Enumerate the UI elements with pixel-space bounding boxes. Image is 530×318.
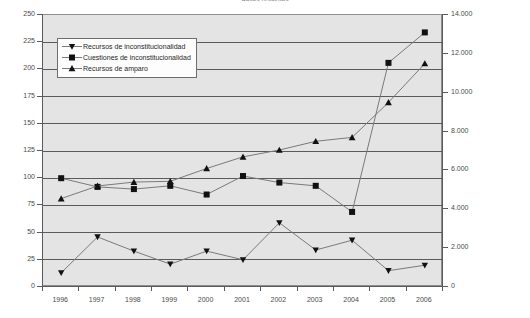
right-axis-tick (443, 169, 448, 170)
left-axis-label: 225 (0, 37, 35, 45)
legend-item: Recursos de inconstitucionalidad (61, 41, 191, 52)
left-axis-label: 175 (0, 92, 35, 100)
left-axis-label: 150 (0, 119, 35, 127)
right-axis-line (442, 14, 443, 286)
right-axis-label: 14.000 (451, 10, 497, 18)
square-marker (61, 52, 83, 63)
right-axis-tick (443, 92, 448, 93)
x-axis-label: 2006 (403, 295, 445, 304)
x-axis-tick (151, 287, 152, 291)
left-axis-tick (37, 232, 42, 233)
left-axis-tick (37, 259, 42, 260)
right-axis-label: 2.000 (451, 243, 497, 251)
left-axis-tick (37, 68, 42, 69)
data-point-marker (421, 60, 428, 66)
x-axis-tick (333, 287, 334, 291)
left-axis-tick (37, 96, 42, 97)
right-axis-tick (443, 14, 448, 15)
x-axis-tick (78, 287, 79, 291)
left-axis-label: 75 (0, 200, 35, 208)
right-axis-label: 12.000 (451, 49, 497, 57)
data-point-marker (349, 209, 355, 215)
left-axis-tick (37, 204, 42, 205)
x-axis-tick (369, 287, 370, 291)
right-axis-tick (443, 131, 448, 132)
right-axis-tick (443, 53, 448, 54)
x-axis-tick (224, 287, 225, 291)
series-3 (58, 60, 428, 201)
triangle-down-marker (61, 41, 83, 52)
left-axis-label: 50 (0, 228, 35, 236)
data-point-marker (131, 186, 137, 192)
right-axis-label: 4.000 (451, 204, 497, 212)
legend-item: Recursos de amparo (61, 63, 191, 74)
right-axis-tick (443, 208, 448, 209)
left-axis-line (42, 14, 43, 286)
data-point-marker (385, 60, 391, 66)
right-axis-tick (443, 247, 448, 248)
right-axis-label: 0 (451, 282, 497, 290)
left-axis-label: 0 (0, 282, 35, 290)
left-axis-tick (37, 123, 42, 124)
legend-item-label: Recursos de amparo (83, 64, 148, 74)
right-axis-tick (443, 286, 448, 287)
data-point-marker (313, 247, 319, 253)
left-axis-label: 100 (0, 173, 35, 181)
data-point-marker (58, 175, 64, 181)
left-axis-tick (37, 14, 42, 15)
data-point-marker (422, 29, 428, 35)
x-axis-tick (297, 287, 298, 291)
left-axis-label: 250 (0, 10, 35, 18)
data-point-marker (58, 270, 64, 276)
x-axis-tick (260, 287, 261, 291)
legend-item-label: Recursos de inconstitucionalidad (83, 42, 185, 52)
data-point-marker (240, 173, 246, 179)
legend-item: Cuestiones de inconstitucionalidad (61, 52, 191, 63)
left-axis-tick (37, 41, 42, 42)
chart-legend: Recursos de inconstitucionalidadCuestion… (57, 38, 197, 78)
data-point-marker (276, 180, 282, 186)
data-point-marker (167, 262, 173, 268)
data-point-marker (313, 183, 319, 189)
x-axis-tick (187, 287, 188, 291)
legend-item-label: Cuestiones de inconstitucionalidad (83, 53, 191, 63)
line-chart: Casos resueltos 250225200175150125100755… (0, 0, 530, 318)
x-axis-tick (115, 287, 116, 291)
x-axis-tick (442, 287, 443, 291)
x-axis-tick (42, 287, 43, 291)
series-1 (58, 220, 428, 276)
left-axis-label: 25 (0, 255, 35, 263)
bottom-axis-line (42, 286, 443, 287)
chart-title: Casos resueltos (0, 0, 530, 3)
data-point-marker (385, 268, 391, 274)
triangle-up-marker (61, 63, 83, 74)
right-axis-label: 6.000 (451, 165, 497, 173)
left-axis-tick (37, 150, 42, 151)
data-point-marker (204, 192, 210, 198)
left-axis-label: 200 (0, 64, 35, 72)
right-axis-label: 8.000 (451, 127, 497, 135)
right-axis-label: 10.000 (451, 88, 497, 96)
x-axis-tick (406, 287, 407, 291)
left-axis-label: 125 (0, 146, 35, 154)
left-axis-tick (37, 177, 42, 178)
